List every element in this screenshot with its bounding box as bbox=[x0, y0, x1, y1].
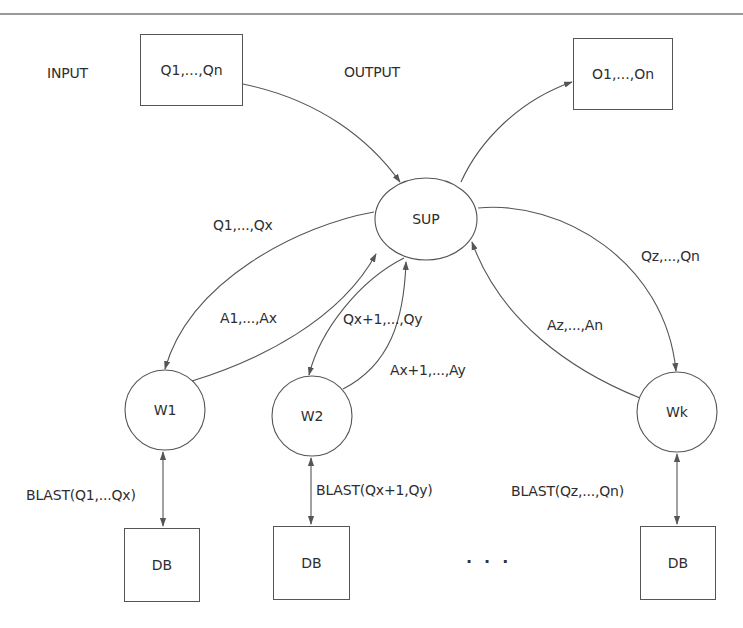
edge-label-q-wk: Qz,...,Qn bbox=[641, 249, 700, 263]
edge-label-q-w2: Qx+1,...,Qy bbox=[343, 312, 422, 326]
edge-label-a-w1: A1,...,Ax bbox=[220, 311, 277, 325]
edge-label-a-w2: Ax+1,...,Ay bbox=[390, 363, 465, 377]
db-box-w1: DB bbox=[124, 528, 200, 602]
worker-node-w2: W2 bbox=[272, 376, 352, 456]
db-box-w2: DB bbox=[273, 526, 350, 600]
input-content: Q1,...,Qn bbox=[160, 62, 222, 78]
edge-label-a-wk: Az,...,An bbox=[547, 318, 603, 332]
w2-label: W2 bbox=[301, 408, 324, 424]
blast-label-wk: BLAST(Qz,...,Qn) bbox=[511, 484, 624, 498]
db-box-wk: DB bbox=[640, 526, 716, 600]
output-label: OUTPUT bbox=[344, 65, 400, 79]
blast-label-w1: BLAST(Q1,...Qx) bbox=[26, 488, 136, 502]
db-label: DB bbox=[668, 555, 688, 571]
input-label: INPUT bbox=[47, 66, 88, 80]
output-box: O1,...,On bbox=[573, 38, 673, 110]
blast-label-w2: BLAST(Qx+1,Qy) bbox=[316, 483, 433, 497]
ellipsis-more-workers: ... bbox=[466, 548, 520, 567]
worker-node-w1: W1 bbox=[125, 370, 205, 450]
output-content: O1,...,On bbox=[592, 66, 654, 82]
sup-label: SUP bbox=[412, 211, 440, 227]
input-box: Q1,...,Qn bbox=[140, 34, 243, 106]
arrow-sup-to-w1 bbox=[165, 212, 374, 369]
arrow-sup-to-output bbox=[461, 82, 572, 182]
wk-label: Wk bbox=[666, 404, 688, 420]
db-label: DB bbox=[152, 557, 172, 573]
w1-label: W1 bbox=[154, 402, 177, 418]
edge-label-q-w1: Q1,...,Qx bbox=[213, 218, 273, 232]
arrow-sup-to-wk bbox=[478, 207, 676, 371]
arrow-input-to-sup bbox=[243, 84, 400, 182]
db-label: DB bbox=[301, 555, 321, 571]
sup-node: SUP bbox=[375, 178, 477, 260]
worker-node-wk: Wk bbox=[637, 372, 717, 452]
